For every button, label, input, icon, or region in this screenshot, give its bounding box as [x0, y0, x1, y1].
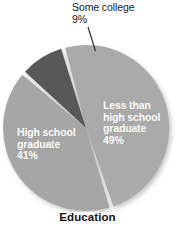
slice-label-line2: high school	[103, 111, 160, 123]
leader-line	[88, 27, 96, 51]
slice-label-line1: Less than	[103, 99, 151, 111]
slice-label-line2: graduate	[17, 138, 60, 150]
slice-label-less-than-high-school-graduate: Less than high school graduate 49%	[103, 100, 160, 146]
slice-label-line3: graduate	[103, 122, 146, 134]
slice-label-high-school-graduate: High school graduate 41%	[17, 127, 75, 162]
slice-label-percent: 49%	[103, 135, 160, 147]
chart-title: Education	[0, 211, 175, 223]
slice-label-percent: 41%	[17, 150, 75, 162]
pie-chart-figure: Some college 9% Less than high school gr…	[0, 0, 175, 228]
slice-label-line1: High school	[17, 126, 75, 138]
